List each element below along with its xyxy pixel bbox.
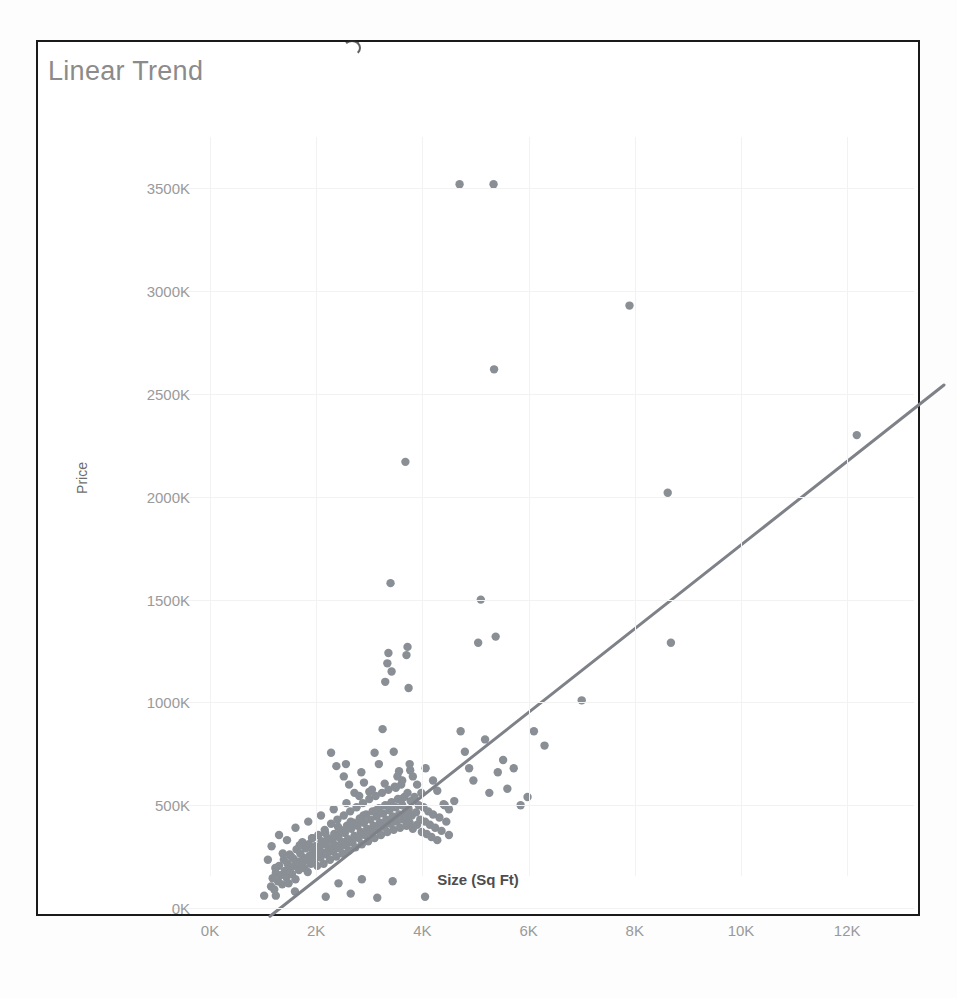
data-point xyxy=(383,659,391,667)
y-tick-label: 3000K xyxy=(106,283,190,300)
data-point xyxy=(405,760,413,768)
data-point xyxy=(338,838,346,846)
data-point xyxy=(625,301,633,309)
data-point xyxy=(275,831,283,839)
data-point xyxy=(461,748,469,756)
data-point xyxy=(523,793,531,801)
data-point xyxy=(401,458,409,466)
x-tick-label: 2K xyxy=(307,922,325,939)
data-point xyxy=(304,817,312,825)
data-point xyxy=(360,778,368,786)
data-point xyxy=(481,735,489,743)
gridline-vertical xyxy=(422,137,423,876)
y-tick-label: 1500K xyxy=(106,591,190,608)
data-point xyxy=(387,667,395,675)
data-point xyxy=(370,749,378,757)
data-point xyxy=(296,841,304,849)
data-point xyxy=(413,780,421,788)
x-tick-label: 12K xyxy=(834,922,861,939)
gridline-horizontal xyxy=(173,188,914,189)
gridline-horizontal xyxy=(173,702,914,703)
data-point xyxy=(330,805,338,813)
data-point xyxy=(664,488,672,496)
data-point xyxy=(317,811,325,819)
data-point xyxy=(272,891,280,899)
data-point xyxy=(359,811,367,819)
scatter-svg xyxy=(38,42,922,918)
data-point xyxy=(429,776,437,784)
data-point xyxy=(510,764,518,772)
data-point xyxy=(321,829,329,837)
data-point xyxy=(386,579,394,587)
data-point xyxy=(381,779,389,787)
data-point xyxy=(378,725,386,733)
gridline-horizontal xyxy=(173,805,914,806)
data-point xyxy=(345,780,353,788)
data-point xyxy=(485,789,493,797)
data-point xyxy=(395,767,403,775)
x-tick-label: 10K xyxy=(728,922,755,939)
data-point xyxy=(445,805,453,813)
gridline-horizontal xyxy=(173,600,914,601)
data-point xyxy=(322,892,330,900)
gridline-vertical xyxy=(316,137,317,876)
data-point xyxy=(489,180,497,188)
data-point xyxy=(279,849,287,857)
data-point xyxy=(342,760,350,768)
data-point xyxy=(373,894,381,902)
data-point xyxy=(384,649,392,657)
data-point xyxy=(409,772,417,780)
y-tick-label: 2000K xyxy=(106,488,190,505)
data-point xyxy=(490,365,498,373)
gridline-horizontal xyxy=(173,394,914,395)
data-point xyxy=(455,180,463,188)
data-point xyxy=(283,836,291,844)
data-point xyxy=(403,643,411,651)
gridline-horizontal xyxy=(173,497,914,498)
y-tick-label: 1000K xyxy=(106,694,190,711)
data-point xyxy=(494,768,502,776)
data-point xyxy=(437,827,445,835)
data-point xyxy=(667,639,675,647)
y-tick-label: 3500K xyxy=(106,180,190,197)
data-point xyxy=(332,762,340,770)
y-tick-label: 500K xyxy=(106,797,190,814)
data-point xyxy=(503,785,511,793)
data-point xyxy=(442,817,450,825)
data-point xyxy=(456,727,464,735)
x-tick-label: 8K xyxy=(626,922,644,939)
data-point xyxy=(347,889,355,897)
gridline-vertical xyxy=(529,137,530,876)
data-point xyxy=(402,812,410,820)
data-point xyxy=(853,431,861,439)
gridline-horizontal xyxy=(173,908,914,909)
data-point xyxy=(357,768,365,776)
data-point xyxy=(264,855,272,863)
data-point xyxy=(381,678,389,686)
data-point xyxy=(421,892,429,900)
data-point xyxy=(469,776,477,784)
data-point xyxy=(540,741,548,749)
x-tick-label: 6K xyxy=(519,922,537,939)
data-point xyxy=(433,836,441,844)
data-point xyxy=(404,684,412,692)
data-point xyxy=(450,797,458,805)
gridline-vertical xyxy=(210,137,211,876)
data-point xyxy=(375,760,383,768)
data-point xyxy=(474,639,482,647)
data-point xyxy=(397,795,405,803)
x-tick-label: 4K xyxy=(413,922,431,939)
data-point xyxy=(372,806,380,814)
x-tick-label: 0K xyxy=(201,922,219,939)
data-point xyxy=(267,842,275,850)
data-point xyxy=(291,824,299,832)
data-point xyxy=(412,808,420,816)
data-point xyxy=(364,828,372,836)
data-point xyxy=(365,788,373,796)
data-point xyxy=(445,831,453,839)
data-point xyxy=(499,756,507,764)
data-point xyxy=(398,776,406,784)
data-point xyxy=(327,749,335,757)
y-tick-label: 0K xyxy=(106,900,190,917)
data-point xyxy=(390,748,398,756)
